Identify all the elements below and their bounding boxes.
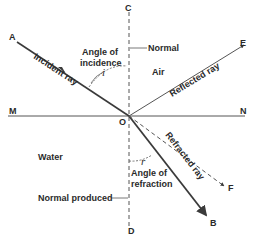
angle-refraction-label-line1: Angle of [131,168,168,178]
normal-label: Normal [148,43,179,53]
point-label-n: N [240,106,247,116]
incidence-angle-arc [89,66,127,87]
angle-incidence-label-line1: Angle of [82,47,119,57]
refracted-ray-label: Refracted ray [163,130,206,181]
refraction-diagram: A C E M N O F B D Air Water Normal Norma… [0,0,253,241]
point-label-o: O [119,117,126,127]
medium-label-air: Air [152,67,165,77]
angle-incidence-label-line2: incidence [80,58,122,68]
reflected-ray-label: Reflected ray [168,61,221,99]
medium-label-water: Water [38,152,63,162]
point-label-c: C [125,3,132,13]
point-label-b: B [210,218,217,228]
incident-ray-label: Incident ray [32,51,80,87]
point-label-d: D [128,226,135,236]
point-label-e: E [240,38,246,48]
angle-refraction-label-line2: refraction [131,179,173,189]
point-label-f: F [228,183,234,193]
normal-produced-label: Normal produced [38,193,113,203]
angle-refraction-symbol: r [141,155,146,167]
point-label-a: A [9,32,16,42]
point-label-m: M [9,106,17,116]
angle-incidence-symbol: i [102,66,105,78]
